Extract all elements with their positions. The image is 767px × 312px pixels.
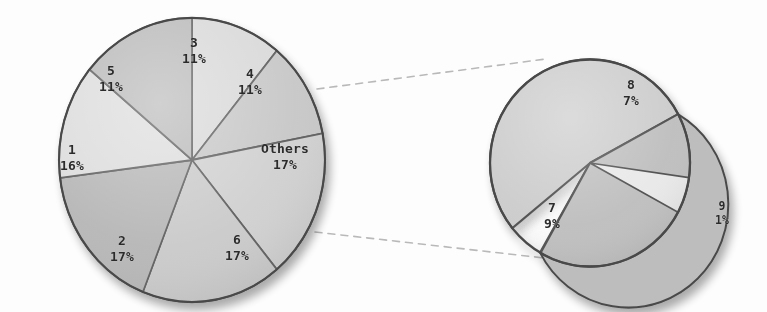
detail-label-8-name: 8 (623, 77, 639, 93)
detail-label-7-value: 9% (544, 216, 560, 232)
detail-label-9: 9 1% (715, 199, 729, 227)
connector-bottom-line (315, 232, 553, 259)
pie-figure (0, 0, 767, 312)
main-label-4-value: 11% (238, 82, 262, 98)
main-label-4-name: 4 (238, 66, 262, 82)
main-label-3-name: 3 (182, 35, 206, 51)
detail-label-7-name: 7 (544, 200, 560, 216)
main-label-1-name: 1 (60, 142, 84, 158)
main-label-2-name: 2 (110, 233, 134, 249)
detail-label-9-value: 1% (715, 213, 729, 227)
main-label-1: 1 16% (60, 142, 84, 174)
connector-top-line (317, 59, 546, 89)
main-label-6-name: 6 (225, 232, 249, 248)
main-label-2: 2 17% (110, 233, 134, 265)
detail-label-8-value: 7% (623, 93, 639, 109)
main-label-1-value: 16% (60, 158, 84, 174)
main-label-others-value: 17% (261, 157, 309, 173)
chart-canvas: 3 11% 4 11% Others 17% 6 17% 2 17% 1 16%… (0, 0, 767, 312)
main-label-5-value: 11% (99, 79, 123, 95)
detail-label-9-name: 9 (715, 199, 729, 213)
main-label-5: 5 11% (99, 63, 123, 95)
main-label-6-value: 17% (225, 248, 249, 264)
main-label-4: 4 11% (238, 66, 262, 98)
detail-pie (490, 59, 728, 307)
main-label-5-name: 5 (99, 63, 123, 79)
main-label-others: Others 17% (261, 141, 309, 173)
main-label-others-name: Others (261, 141, 309, 157)
main-label-6: 6 17% (225, 232, 249, 264)
main-label-3-value: 11% (182, 51, 206, 67)
detail-label-8: 8 7% (623, 77, 639, 109)
main-label-2-value: 17% (110, 249, 134, 265)
main-label-3: 3 11% (182, 35, 206, 67)
detail-label-7: 7 9% (544, 200, 560, 232)
